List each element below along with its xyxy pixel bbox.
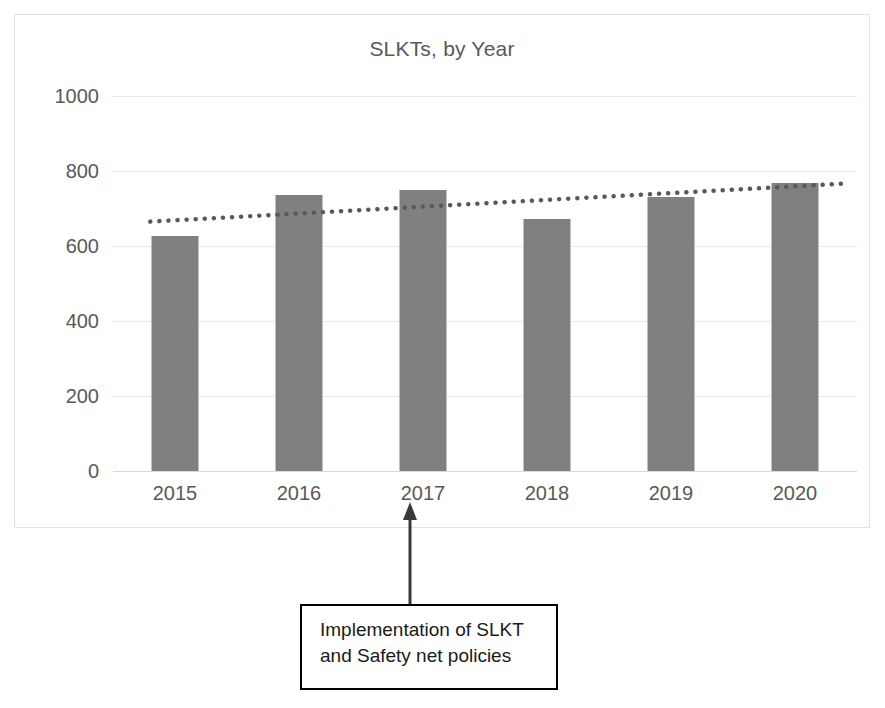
bar-slot-2015: 2015: [113, 96, 237, 471]
bar-2018[interactable]: [524, 219, 571, 471]
gridline: [113, 471, 857, 472]
bar-2020[interactable]: [772, 183, 819, 471]
y-axis-tick-label: 200: [66, 385, 99, 408]
bar-2015[interactable]: [152, 236, 199, 471]
bar-2017[interactable]: [400, 190, 447, 471]
y-axis-tick-label: 600: [66, 235, 99, 258]
bar-2019[interactable]: [648, 197, 695, 471]
y-axis-tick-label: 400: [66, 310, 99, 333]
x-axis-tick-label: 2020: [773, 482, 818, 505]
x-axis-tick-label: 2015: [153, 482, 198, 505]
bar-slot-2019: 2019: [609, 96, 733, 471]
bar-slot-2018: 2018: [485, 96, 609, 471]
bar-slot-2017: 2017: [361, 96, 485, 471]
bar-slot-2020: 2020: [733, 96, 857, 471]
x-axis-tick-label: 2018: [525, 482, 570, 505]
x-axis-tick-label: 2017: [401, 482, 446, 505]
x-axis-tick-label: 2016: [277, 482, 322, 505]
y-axis-tick-label: 800: [66, 160, 99, 183]
annotation-textbox: Implementation of SLKT and Safety net po…: [300, 604, 558, 690]
chart-title: SLKTs, by Year: [15, 37, 869, 61]
x-axis-tick-label: 2019: [649, 482, 694, 505]
y-axis-tick-label: 0: [88, 460, 99, 483]
plot-area: 10008006004002000 2015201620172018201920…: [113, 96, 857, 471]
chart-container: SLKTs, by Year 10008006004002000 2015201…: [14, 14, 870, 528]
bar-2016[interactable]: [276, 195, 323, 471]
y-axis-tick-label: 1000: [55, 85, 100, 108]
bar-slot-2016: 2016: [237, 96, 361, 471]
annotation-label: Implementation of SLKT and Safety net po…: [320, 617, 556, 668]
